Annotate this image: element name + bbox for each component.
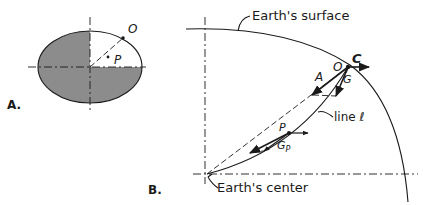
label-g: G — [343, 73, 352, 86]
panel-b-label: B. — [148, 183, 162, 197]
panel-a-label: A. — [7, 98, 21, 112]
figure-canvas: O P A. Earth's sur — [0, 0, 425, 205]
label-o: O — [128, 22, 137, 36]
label-gp-main: G — [277, 139, 286, 152]
label-gp-sub: P — [286, 145, 291, 154]
parallelogram-dash — [313, 95, 336, 96]
panel-b: Earth's surface Earth's center line ℓ O … — [148, 8, 418, 202]
label-p: P — [114, 53, 122, 67]
line-l-leader — [318, 112, 333, 117]
panel-a: O P A. — [7, 17, 150, 112]
point-o-dot — [121, 36, 125, 40]
label-p-b: P — [279, 121, 286, 134]
line-l-label: line ℓ — [334, 110, 364, 124]
label-gp: GP — [277, 139, 291, 154]
surface-leader — [238, 16, 250, 31]
label-o-b: O — [333, 60, 342, 74]
earth-center-label: Earth's center — [217, 180, 309, 195]
label-c: C — [352, 51, 362, 66]
label-a: A — [314, 70, 323, 84]
earth-surface-arc — [186, 29, 408, 202]
earth-surface-label: Earth's surface — [252, 8, 349, 23]
point-p-dot — [107, 56, 110, 59]
